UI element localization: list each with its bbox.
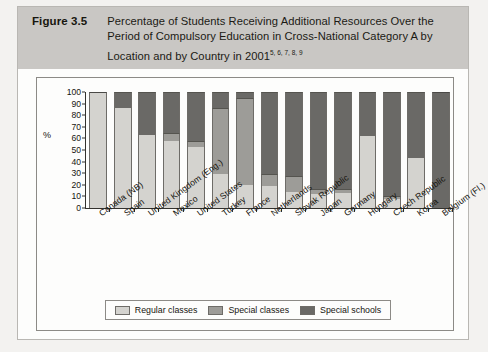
figure-screenshot: Figure 3.5 Percentage of Students Receiv… (0, 0, 488, 352)
bar-united-states[interactable] (187, 92, 205, 208)
bar-segment-special-classes (187, 141, 205, 147)
y-axis-tick-mark (82, 184, 85, 185)
bar-france[interactable] (236, 92, 254, 208)
legend-item-special-classes: Special classes (208, 305, 289, 315)
bar-segment-special-classes (261, 174, 279, 186)
bar-segment-special-schools (383, 92, 401, 196)
bar-segment-regular (89, 92, 107, 208)
y-axis-tick-mark (82, 196, 85, 197)
bar-segment-special-schools (285, 92, 303, 176)
bar-segment-special-schools (163, 92, 181, 133)
legend-swatch-regular-classes (115, 306, 130, 315)
y-axis-tick-label: 50 (51, 145, 85, 155)
bar-segment-special-schools (114, 92, 132, 108)
y-axis-tick-label: 90 (51, 99, 85, 109)
bar-canada-nb[interactable] (89, 92, 107, 208)
y-axis-tick-label: 30 (51, 168, 85, 178)
bar-segment-special-schools (138, 92, 156, 135)
chart-frame: % 0102030405060708090100 Canada (NB)Spai… (36, 77, 454, 331)
x-axis-labels: Canada (NB)SpainUnited Kingdom (Eng.)Mex… (86, 210, 486, 290)
figure-number: Figure 3.5 (32, 14, 87, 69)
figure-title-line1: Percentage of Students Receiving Additio… (107, 15, 433, 27)
plot-shell: % 0102030405060708090100 Canada (NB)Spai… (18, 69, 468, 339)
y-axis-tick-label: 80 (51, 110, 85, 120)
y-axis-title: % (43, 130, 51, 140)
y-axis-tick-mark (82, 115, 85, 116)
y-axis-tick-mark (82, 173, 85, 174)
bar-segment-special-schools (310, 92, 328, 189)
legend-label-regular-classes: Regular classes (135, 305, 198, 315)
y-axis-tick-label: 70 (51, 122, 85, 132)
y-axis-tick-label: 60 (51, 133, 85, 143)
figure-title-footnote-refs: 5, 6, 7, 8, 9 (270, 49, 303, 56)
y-axis-tick-label: 20 (51, 180, 85, 190)
y-axis-tick-mark (82, 126, 85, 127)
bar-segment-special-classes (236, 98, 254, 185)
legend-item-regular-classes: Regular classes (115, 305, 198, 315)
chart-legend: Regular classes Special classes Special … (105, 300, 391, 320)
legend-label-special-classes: Special classes (228, 305, 289, 315)
legend-swatch-special-classes (208, 306, 223, 315)
figure-title-line3: Location and by Country in 2001 (107, 49, 270, 61)
bar-segment-special-classes (163, 133, 181, 141)
y-axis-tick-mark (82, 92, 85, 93)
y-axis-tick-label: 100 (51, 87, 85, 97)
y-axis-tick-mark (82, 208, 85, 209)
bar-segment-special-schools (261, 92, 279, 174)
y-axis-tick-label: 40 (51, 157, 85, 167)
bar-united-kingdom-eng[interactable] (138, 92, 156, 208)
figure-title-line2: Period of Compulsory Education in Cross-… (107, 30, 432, 42)
bar-netherlands[interactable] (261, 92, 279, 208)
legend-label-special-schools: Special schools (320, 305, 381, 315)
y-axis-tick-label: 0 (51, 203, 85, 213)
bar-group (86, 92, 453, 208)
bar-segment-special-schools (187, 92, 205, 141)
legend-swatch-special-schools (300, 306, 315, 315)
figure-title: Percentage of Students Receiving Additio… (107, 14, 437, 69)
bar-segment-special-schools (236, 92, 254, 98)
y-axis-tick-mark (82, 161, 85, 162)
legend-item-special-schools: Special schools (300, 305, 381, 315)
bar-segment-special-schools (407, 92, 425, 158)
figure-card: Figure 3.5 Percentage of Students Receiv… (17, 6, 469, 340)
bar-segment-special-schools (212, 92, 230, 108)
y-axis-tick-mark (82, 150, 85, 151)
figure-header: Figure 3.5 Percentage of Students Receiv… (18, 7, 468, 69)
y-axis-tick-mark (82, 103, 85, 104)
bar-segment-special-schools (359, 92, 377, 136)
y-axis-tick-mark (82, 138, 85, 139)
y-axis-tick-label: 10 (51, 191, 85, 201)
